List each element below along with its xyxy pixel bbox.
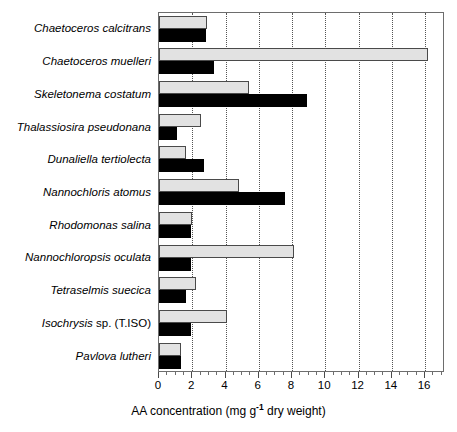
bar-black-2 xyxy=(159,94,307,107)
tick-8 xyxy=(291,372,292,378)
tick-label-2: 2 xyxy=(176,379,206,391)
category-label-3: Thalassiosira pseudonana xyxy=(17,120,151,134)
bar-black-6 xyxy=(159,225,191,238)
gridline-14 xyxy=(392,13,393,371)
tick-15 xyxy=(407,372,408,375)
category-label-italic: Chaetoceros muelleri xyxy=(42,55,151,67)
bar-grey-10 xyxy=(159,343,181,356)
tick-10.5 xyxy=(333,372,334,375)
gridline-12 xyxy=(359,13,360,371)
tick-16 xyxy=(424,372,425,378)
bar-black-1 xyxy=(159,61,214,74)
category-label-9: Isochrysis sp. (T.ISO) xyxy=(42,316,151,330)
bar-grey-6 xyxy=(159,212,192,225)
axis-title-tail: dry weight) xyxy=(264,404,326,418)
tick-label-6: 6 xyxy=(243,379,273,391)
category-label-8: Tetraselmis suecica xyxy=(50,283,151,297)
category-label-italic: Thalassiosira pseudonana xyxy=(17,121,151,133)
category-label-italic: Rhodomonas salina xyxy=(49,219,151,231)
category-label-0: Chaetoceros calcitrans xyxy=(34,21,151,35)
bar-black-3 xyxy=(159,127,177,140)
category-label-italic: Pavlova lutheri xyxy=(76,350,151,362)
gridline-10 xyxy=(325,13,326,371)
category-label-6: Rhodomonas salina xyxy=(49,218,151,232)
tick-12 xyxy=(358,372,359,378)
x-axis-title: AA concentration (mg g-1 dry weight) xyxy=(0,402,457,418)
tick-0.5 xyxy=(166,372,167,375)
bar-grey-9 xyxy=(159,310,227,323)
tick-17 xyxy=(441,372,442,375)
bar-grey-1 xyxy=(159,48,428,61)
tick-7 xyxy=(274,372,275,375)
bar-grey-3 xyxy=(159,114,201,127)
bar-grey-8 xyxy=(159,277,196,290)
bar-black-8 xyxy=(159,290,186,303)
category-label-4: Dunaliella tertiolecta xyxy=(47,152,151,166)
tick-label-4: 4 xyxy=(210,379,240,391)
tick-4.5 xyxy=(233,372,234,375)
tick-8.5 xyxy=(299,372,300,375)
tick-13 xyxy=(374,372,375,375)
tick-2.5 xyxy=(200,372,201,375)
tick-9.5 xyxy=(316,372,317,375)
axis-title-superscript: -1 xyxy=(256,402,264,412)
tick-label-0: 0 xyxy=(143,379,173,391)
category-label-7: Nannochloropsis oculata xyxy=(25,250,151,264)
tick-4 xyxy=(225,372,226,378)
tick-label-10: 10 xyxy=(309,379,339,391)
gridline-8 xyxy=(292,13,293,371)
tick-11.5 xyxy=(349,372,350,375)
tick-6.5 xyxy=(266,372,267,375)
category-label-upright: sp. (T.ISO) xyxy=(96,317,151,329)
bar-black-4 xyxy=(159,159,204,172)
tick-0 xyxy=(158,372,159,378)
bar-black-9 xyxy=(159,323,191,336)
tick-15.5 xyxy=(416,372,417,375)
bar-grey-0 xyxy=(159,16,207,29)
bar-black-0 xyxy=(159,29,206,42)
category-label-italic: Dunaliella tertiolecta xyxy=(47,153,151,165)
tick-label-14: 14 xyxy=(376,379,406,391)
tick-6 xyxy=(258,372,259,378)
category-label-italic: Nannochloropsis oculata xyxy=(25,251,151,263)
tick-12.5 xyxy=(366,372,367,375)
tick-label-8: 8 xyxy=(276,379,306,391)
bar-chart: Chaetoceros calcitransChaetoceros muelle… xyxy=(0,0,457,432)
category-label-italic: Nannochloris atomus xyxy=(43,186,151,198)
bar-grey-7 xyxy=(159,245,294,258)
category-label-italic: Isochrysis xyxy=(42,317,96,329)
tick-5 xyxy=(241,372,242,375)
tick-1 xyxy=(175,372,176,375)
bar-grey-5 xyxy=(159,179,239,192)
tick-3 xyxy=(208,372,209,375)
tick-3.5 xyxy=(216,372,217,375)
tick-9 xyxy=(308,372,309,375)
tick-2 xyxy=(191,372,192,378)
category-label-italic: Chaetoceros calcitrans xyxy=(34,22,151,34)
tick-label-12: 12 xyxy=(343,379,373,391)
category-label-2: Skeletonema costatum xyxy=(34,87,151,101)
category-label-1: Chaetoceros muelleri xyxy=(42,54,151,68)
tick-7.5 xyxy=(283,372,284,375)
tick-14 xyxy=(391,372,392,378)
tick-13.5 xyxy=(382,372,383,375)
tick-10 xyxy=(324,372,325,378)
tick-label-16: 16 xyxy=(409,379,439,391)
bar-black-10 xyxy=(159,356,181,369)
tick-16.5 xyxy=(432,372,433,375)
category-label-10: Pavlova lutheri xyxy=(76,349,151,363)
x-axis-ticks: 0246810121416 xyxy=(158,372,444,380)
bar-black-5 xyxy=(159,192,285,205)
category-label-italic: Tetraselmis suecica xyxy=(50,284,151,296)
tick-14.5 xyxy=(399,372,400,375)
plot-area xyxy=(158,12,444,372)
bar-grey-4 xyxy=(159,146,186,159)
bar-black-7 xyxy=(159,258,191,271)
category-label-5: Nannochloris atomus xyxy=(43,185,151,199)
gridline-16 xyxy=(425,13,426,371)
category-axis-labels: Chaetoceros calcitransChaetoceros muelle… xyxy=(0,12,155,372)
category-label-italic: Skeletonema costatum xyxy=(34,88,151,100)
tick-5.5 xyxy=(249,372,250,375)
axis-title-main: AA concentration (mg g xyxy=(131,404,256,418)
bar-grey-2 xyxy=(159,81,249,94)
